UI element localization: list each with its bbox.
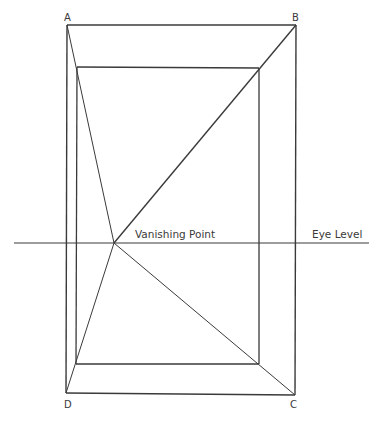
outer-right-edge bbox=[295, 25, 296, 395]
outer-left-edge bbox=[66, 25, 67, 393]
corner-label-b: B bbox=[292, 12, 299, 23]
vp-line-a bbox=[67, 25, 114, 243]
inner-top-edge bbox=[77, 67, 259, 68]
inner-left-edge bbox=[76, 67, 77, 364]
corner-label-d: D bbox=[64, 399, 72, 410]
vp-line-c bbox=[114, 243, 295, 395]
outer-bottom-edge bbox=[66, 393, 295, 395]
vp-line-b bbox=[114, 25, 296, 243]
perspective-diagram: A B C D Vanishing Point Eye Level bbox=[0, 0, 377, 425]
corner-label-c: C bbox=[290, 399, 297, 410]
eye-level-label: Eye Level bbox=[312, 228, 362, 240]
vp-line-d bbox=[66, 243, 114, 393]
corner-label-a: A bbox=[64, 12, 71, 23]
vanishing-point-label: Vanishing Point bbox=[135, 228, 215, 240]
